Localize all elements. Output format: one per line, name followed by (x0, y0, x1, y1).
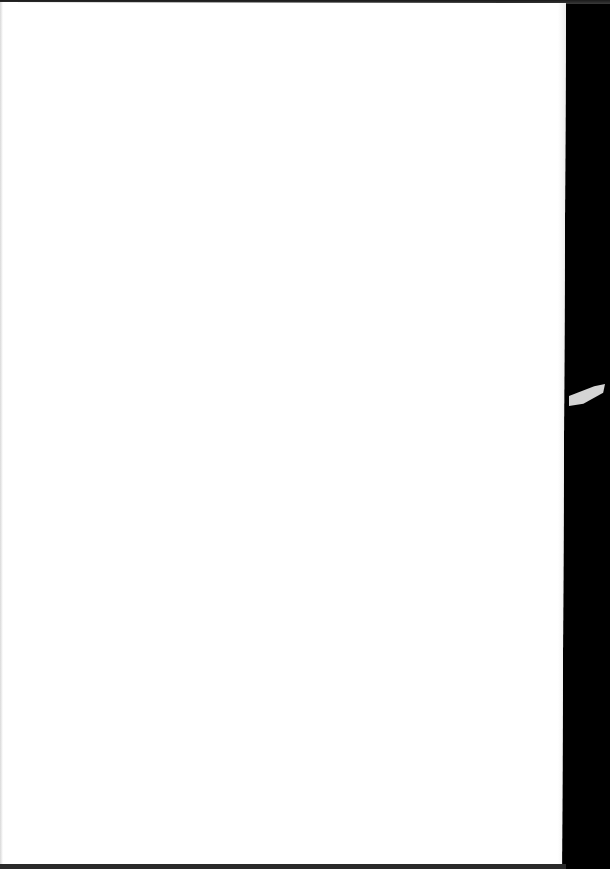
paper-fragment (569, 384, 605, 406)
page-left-shadow (0, 2, 3, 866)
blank-page (0, 2, 566, 866)
scan-bottom-edge (0, 864, 566, 869)
page-right-shadow (558, 2, 566, 866)
